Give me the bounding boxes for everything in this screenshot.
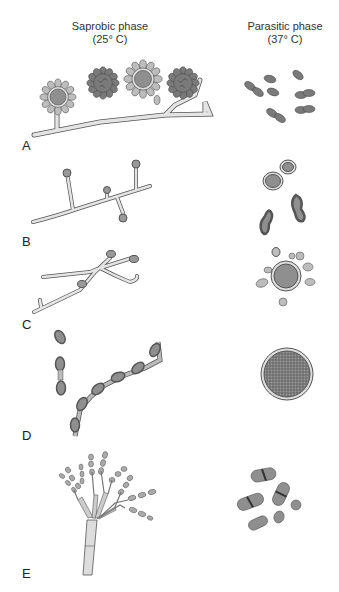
row-a-parasitic <box>243 68 315 124</box>
fungal-dimorphism-illustration <box>0 0 339 592</box>
row-c-saprobic <box>34 251 139 313</box>
row-d-parasitic <box>261 348 313 400</box>
row-b-saprobic <box>33 160 150 222</box>
row-c-parasitic <box>255 248 315 307</box>
row-d-saprobic <box>53 329 163 436</box>
row-a-saprobic <box>34 60 210 135</box>
row-b-parasitic <box>261 160 305 234</box>
row-e-parasitic <box>236 467 301 532</box>
row-e-saprobic <box>58 451 156 575</box>
